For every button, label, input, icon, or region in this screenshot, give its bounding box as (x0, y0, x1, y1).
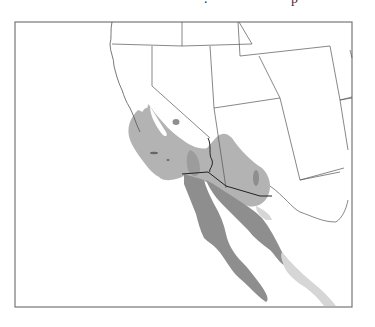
dark-patch-california (173, 119, 180, 125)
dark-patch-arizona (253, 170, 259, 186)
range-map (0, 0, 375, 327)
